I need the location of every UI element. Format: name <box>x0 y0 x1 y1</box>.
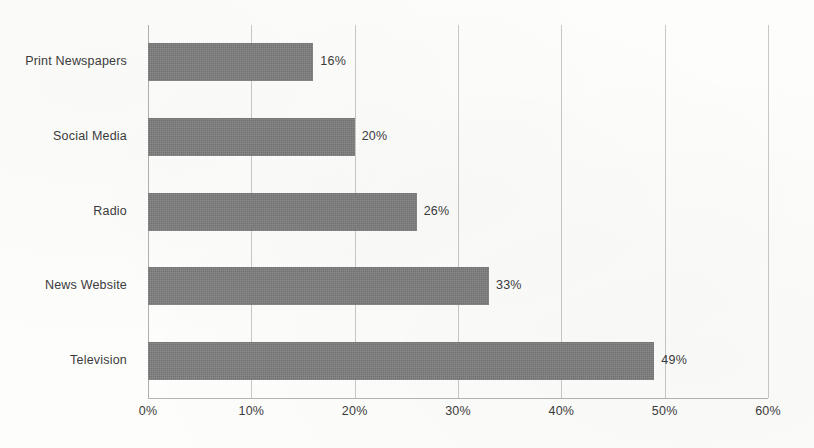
bar <box>148 267 489 305</box>
x-tick-label: 20% <box>342 404 368 418</box>
x-tick-label: 60% <box>755 404 781 418</box>
bar-value-label: 16% <box>320 54 346 68</box>
category-label: Radio <box>0 204 139 218</box>
x-tick-label: 40% <box>549 404 575 418</box>
bar <box>148 43 313 81</box>
x-axis-line <box>148 398 768 399</box>
bar <box>148 342 654 380</box>
bar-value-label: 33% <box>496 278 522 292</box>
x-tick-label: 0% <box>139 404 157 418</box>
bar-value-label: 20% <box>362 129 388 143</box>
category-label: Television <box>0 353 139 367</box>
category-label: Social Media <box>0 129 139 143</box>
category-axis-labels: Print NewspapersSocial MediaRadioNews We… <box>0 25 139 398</box>
x-tick-label: 10% <box>239 404 265 418</box>
category-label: News Website <box>0 278 139 292</box>
bar <box>148 193 417 231</box>
bar <box>148 118 355 156</box>
x-tick-label: 30% <box>445 404 471 418</box>
category-label: Print Newspapers <box>0 54 139 68</box>
x-tick-label: 50% <box>652 404 678 418</box>
x-axis-tick-labels: 0%10%20%30%40%50%60% <box>0 404 814 430</box>
bar-value-label: 26% <box>424 204 450 218</box>
bar-value-label: 49% <box>661 353 687 367</box>
chart-page: 16%20%26%33%49% Print NewspapersSocial M… <box>0 0 814 448</box>
